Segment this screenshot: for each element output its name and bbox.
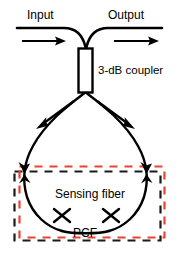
input-fiber-line	[17, 28, 86, 47]
input-direction-arrow-icon	[22, 37, 66, 46]
output-label: Output	[108, 9, 144, 21]
splice-x-mark-right-icon	[103, 209, 119, 222]
coupler-body	[79, 49, 93, 93]
output-direction-arrow-icon	[114, 37, 159, 46]
loop-arrow-down-right-icon	[97, 101, 135, 129]
fiber-loop-figure: Input Output 3-dB coupler Sensing fiber …	[0, 0, 179, 258]
coupler-label: 3-dB coupler	[98, 65, 163, 77]
pcf-label: PCF	[73, 227, 97, 239]
figure-canvas	[0, 0, 179, 258]
splice-x-mark-left-icon	[54, 209, 70, 222]
loop-arrow-down-left-icon	[36, 101, 74, 129]
sensing-fiber-label: Sensing fiber	[55, 188, 125, 200]
input-label: Input	[27, 9, 54, 21]
